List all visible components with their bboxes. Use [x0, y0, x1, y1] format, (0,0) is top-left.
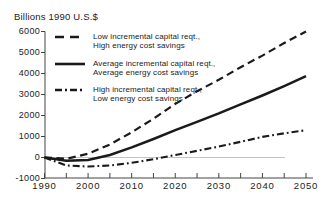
legend-label-line1: Average incremental capital reqt., [93, 59, 215, 68]
x-tick-label: 2040 [245, 181, 279, 191]
legend-label: Average incremental capital reqt., Avera… [93, 59, 215, 78]
y-tick-label: 4000 [0, 69, 40, 78]
legend-label-line2: Low energy cost savings [93, 94, 202, 103]
x-tick-label: 2050 [289, 181, 323, 191]
y-tick-label: 1000 [0, 132, 40, 141]
x-tick-label: 1990 [28, 181, 62, 191]
y-tick-label: 0 [0, 153, 40, 162]
legend-label: High incremental capital reqt., Low ener… [93, 85, 202, 104]
legend-label-line2: High energy cost savings [93, 41, 200, 50]
x-tick-label: 2030 [202, 181, 236, 191]
legend-item-low-capital-high-savings: Low incremental capital reqt., High ener… [54, 32, 215, 51]
legend-label-line1: High incremental capital reqt., [93, 85, 202, 94]
legend-item-high-capital-low-savings: High incremental capital reqt., Low ener… [54, 85, 215, 104]
legend-label: Low incremental capital reqt., High ener… [93, 32, 200, 51]
x-tick-label: 2010 [115, 181, 149, 191]
dashed-line-icon [54, 33, 86, 41]
y-tick-label: 6000 [0, 27, 40, 36]
y-tick-label: 3000 [0, 90, 40, 99]
y-tick-label: 2000 [0, 111, 40, 120]
legend: Low incremental capital reqt., High ener… [54, 32, 215, 112]
solid-line-icon [54, 60, 86, 68]
x-tick-label: 2000 [71, 181, 105, 191]
x-tick-label: 2020 [158, 181, 192, 191]
legend-item-average-capital-average-savings: Average incremental capital reqt., Avera… [54, 59, 215, 78]
dash-dot-line-icon [54, 86, 86, 94]
legend-label-line1: Low incremental capital reqt., [93, 32, 200, 41]
chart: Billions 1990 U.S.$ -1000010002000300040… [0, 0, 329, 204]
y-tick-label: 5000 [0, 48, 40, 57]
legend-label-line2: Average energy cost savings [93, 68, 215, 77]
